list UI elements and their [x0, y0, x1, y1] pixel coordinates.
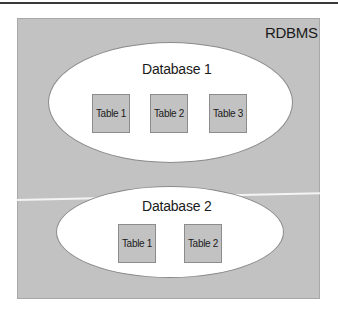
rdbms-label: RDBMS — [265, 24, 318, 41]
database-1-table-1: Table 1 — [92, 94, 130, 133]
database-2-table-2: Table 2 — [184, 224, 222, 263]
database-2-table-1: Table 1 — [118, 224, 156, 263]
database-1-table-2: Table 2 — [150, 94, 188, 133]
database-1-label: Database 1 — [142, 61, 212, 77]
database-1-table-3: Table 3 — [209, 94, 247, 133]
database-2-label: Database 2 — [142, 198, 212, 214]
top-rule-line — [0, 2, 338, 4]
